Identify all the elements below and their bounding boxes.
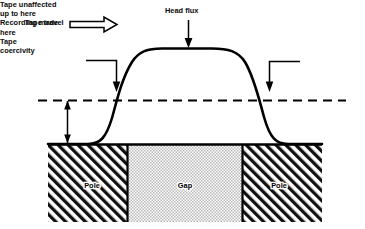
pole-left-hatch-fill — [48, 144, 127, 222]
tape-travel-label: Tape travel — [25, 18, 64, 27]
head-flux-diagram: Tape travel Head flux Tape unaffected up… — [0, 0, 365, 229]
tape-coercivity-dimension-arrow-icon — [64, 101, 71, 144]
pole-right-hatch-fill — [243, 144, 322, 222]
head-flux-arrow-icon — [185, 20, 193, 48]
gap-stipple-fill — [127, 144, 243, 222]
tape-travel-arrow-icon — [70, 17, 117, 32]
region-pole-right — [243, 144, 322, 222]
diagram-canvas — [0, 0, 365, 229]
head-flux-label: Head flux — [165, 6, 198, 15]
recording-made-leader-icon — [266, 62, 300, 93]
head-flux-curve — [48, 49, 322, 145]
tape-unaffected-leader-icon — [86, 61, 120, 93]
head-block — [48, 144, 322, 222]
region-gap — [127, 144, 243, 222]
region-pole-left — [48, 144, 127, 222]
